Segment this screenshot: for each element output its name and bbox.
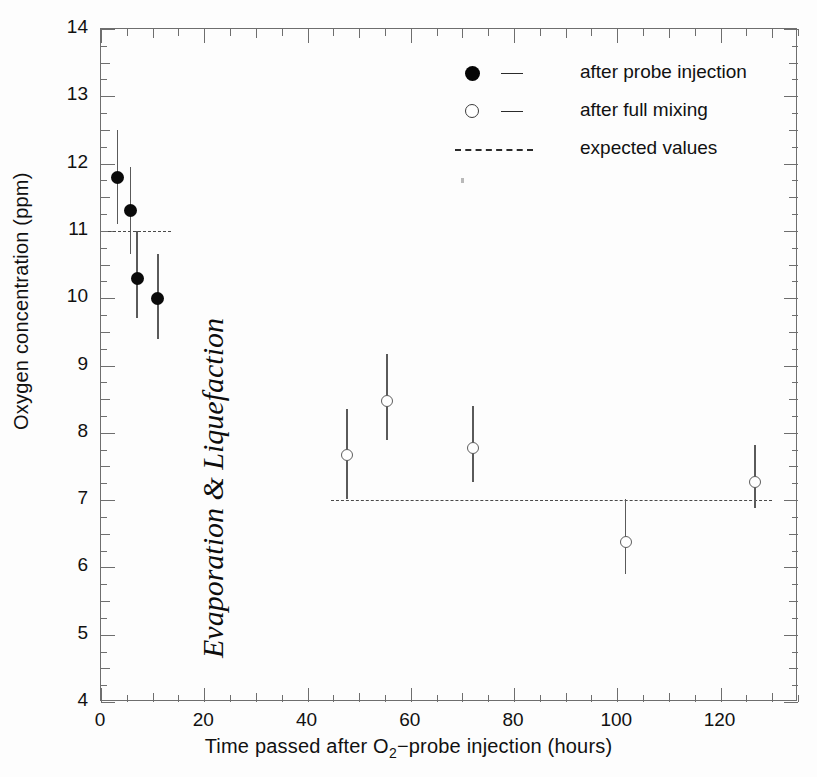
- x-minor-tick: [437, 695, 438, 702]
- y-minor-tick: [101, 584, 107, 585]
- data-point-open: [467, 442, 479, 454]
- x-major-tick-top: [411, 29, 412, 43]
- x-minor-tick-top: [591, 29, 592, 36]
- y-minor-tick: [101, 668, 110, 669]
- y-minor-tick-right: [792, 113, 798, 114]
- x-minor-tick-top: [282, 29, 283, 36]
- y-minor-tick-right: [792, 618, 798, 619]
- data-point-open: [749, 476, 761, 488]
- y-minor-tick: [101, 332, 110, 333]
- y-minor-tick: [101, 349, 107, 350]
- x-tick-label: 40: [277, 709, 337, 731]
- legend-key-dashed-line: [455, 131, 575, 169]
- y-tick-label: 13: [42, 83, 88, 105]
- y-minor-tick: [101, 130, 110, 131]
- x-axis-title-post: −probe injection (hours): [397, 735, 612, 757]
- x-minor-tick: [127, 695, 128, 702]
- x-axis-title: Time passed after O2−probe injection (ho…: [0, 735, 817, 761]
- chart-figure: Oxygen concentration (ppm) Time passed a…: [0, 0, 817, 777]
- x-minor-tick-top: [359, 29, 360, 38]
- x-minor-tick-top: [256, 29, 257, 38]
- x-minor-tick-top: [153, 29, 154, 38]
- y-minor-tick: [101, 265, 110, 266]
- x-major-tick: [411, 688, 412, 702]
- data-point-filled: [131, 272, 144, 285]
- x-major-tick-top: [101, 29, 102, 43]
- x-minor-tick: [462, 693, 463, 702]
- dash-icon: [501, 73, 523, 74]
- y-major-tick: [101, 366, 115, 367]
- legend-label: expected values: [580, 137, 717, 159]
- y-major-tick-right: [784, 567, 798, 568]
- y-minor-tick-right: [792, 652, 798, 653]
- y-major-tick: [101, 702, 115, 703]
- y-minor-tick: [101, 450, 107, 451]
- y-major-tick: [101, 96, 115, 97]
- y-major-tick-right: [784, 96, 798, 97]
- x-minor-tick-top: [643, 29, 644, 36]
- y-minor-tick-right: [792, 349, 798, 350]
- y-minor-tick-right: [789, 63, 798, 64]
- x-minor-tick-top: [669, 29, 670, 38]
- y-major-tick-right: [784, 635, 798, 636]
- x-minor-tick-top: [385, 29, 386, 36]
- y-axis-title-text: Oxygen concentration (ppm): [10, 172, 33, 430]
- x-tick-label: 80: [483, 709, 543, 731]
- y-tick-label: 10: [42, 285, 88, 307]
- y-major-tick: [101, 29, 115, 30]
- y-minor-tick: [101, 197, 110, 198]
- x-minor-tick: [695, 695, 696, 702]
- x-minor-tick: [359, 693, 360, 702]
- y-major-tick-right: [784, 164, 798, 165]
- y-minor-tick-right: [792, 79, 798, 80]
- y-tick-label: 4: [42, 689, 88, 711]
- x-axis-title-subscript: 2: [389, 745, 397, 761]
- y-minor-tick-right: [792, 416, 798, 417]
- y-minor-tick: [101, 399, 110, 400]
- data-point-open: [341, 449, 353, 461]
- y-major-tick: [101, 567, 115, 568]
- y-minor-tick-right: [792, 281, 798, 282]
- y-minor-tick-right: [792, 214, 798, 215]
- legend-label: after probe injection: [580, 61, 747, 83]
- y-minor-tick-right: [792, 517, 798, 518]
- x-major-tick-top: [514, 29, 515, 43]
- y-minor-tick: [101, 46, 107, 47]
- y-minor-tick: [101, 248, 107, 249]
- y-minor-tick: [101, 79, 107, 80]
- y-minor-tick: [101, 113, 107, 114]
- y-minor-tick: [101, 382, 107, 383]
- legend-key-filled-circle: [455, 55, 575, 93]
- x-minor-tick: [772, 693, 773, 702]
- x-minor-tick-top: [488, 29, 489, 36]
- data-point-open: [620, 536, 632, 548]
- x-minor-tick: [643, 695, 644, 702]
- legend-label: after full mixing: [580, 99, 708, 121]
- x-minor-tick-top: [566, 29, 567, 38]
- x-minor-tick-top: [462, 29, 463, 38]
- y-minor-tick: [101, 466, 110, 467]
- y-minor-tick: [101, 416, 107, 417]
- y-tick-label: 12: [42, 151, 88, 173]
- y-minor-tick-right: [789, 130, 798, 131]
- x-major-tick: [617, 688, 618, 702]
- y-major-tick: [101, 500, 115, 501]
- filled-circle-icon: [465, 66, 480, 81]
- y-minor-tick: [101, 551, 107, 552]
- y-minor-tick-right: [789, 265, 798, 266]
- x-minor-tick: [540, 695, 541, 702]
- y-major-tick-right: [784, 500, 798, 501]
- x-minor-tick: [798, 695, 799, 702]
- x-major-tick: [204, 688, 205, 702]
- data-point-filled: [151, 292, 164, 305]
- y-tick-label: 11: [42, 218, 88, 240]
- expected-value-line: [331, 500, 772, 501]
- chart-legend: after probe injection after full mixing …: [455, 55, 785, 169]
- x-minor-tick: [591, 695, 592, 702]
- y-major-tick-right: [784, 366, 798, 367]
- y-minor-tick-right: [789, 399, 798, 400]
- data-point-open: [381, 395, 393, 407]
- y-minor-tick: [101, 685, 107, 686]
- dash-icon: [501, 111, 523, 112]
- y-minor-tick-right: [792, 180, 798, 181]
